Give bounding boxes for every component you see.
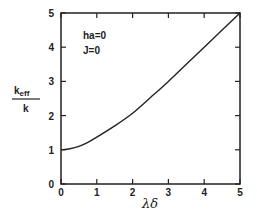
annotation-j: J=0 [83, 45, 100, 56]
annotation-ha: ha=0 [83, 30, 107, 41]
y-axis-label: keff k [12, 85, 40, 114]
y-tick-label: 2 [48, 111, 54, 122]
x-tick-label: 3 [166, 187, 172, 198]
x-axis-label: λδ [141, 196, 158, 211]
x-tick-label: 2 [130, 187, 136, 198]
y-axis-label-denominator: k [23, 103, 29, 114]
x-tick-label: 4 [201, 187, 207, 198]
x-tick-label: 0 [58, 187, 64, 198]
y-tick-label: 0 [48, 179, 54, 190]
y-tick-label: 5 [48, 8, 54, 19]
x-tick-label: 1 [94, 187, 100, 198]
y-axis-label-numerator: keff [14, 85, 30, 98]
y-tick-label: 4 [48, 42, 54, 53]
chart: 012345012345 ha=0 J=0 λδ keff k [0, 0, 257, 215]
y-tick-label: 3 [48, 76, 54, 87]
x-tick-label: 5 [237, 187, 243, 198]
axis-labels: 012345012345 [48, 8, 243, 198]
y-tick-label: 1 [48, 145, 54, 156]
